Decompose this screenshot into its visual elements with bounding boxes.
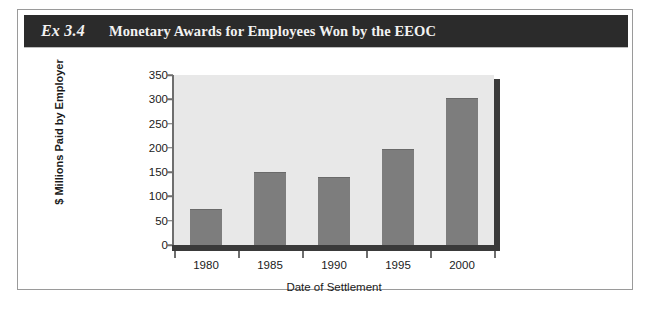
y-tick-label: 250	[149, 118, 168, 130]
x-tick-mark	[494, 251, 496, 258]
bar-chart: $ Millions Paid by Employer 050100150200…	[18, 48, 632, 289]
x-tick-label: 1985	[240, 259, 300, 271]
x-tick-label: 2000	[432, 259, 492, 271]
exhibit-number: Ex 3.4	[41, 22, 85, 40]
y-tick-mark	[167, 99, 173, 101]
y-axis-tick-labels: 050100150200250300350	[136, 75, 168, 245]
bar-2000	[446, 98, 478, 245]
exhibit-title-bar: Ex 3.4 Monetary Awards for Employees Won…	[24, 15, 628, 47]
bar-1995	[382, 149, 414, 245]
x-tick-label: 1990	[304, 259, 364, 271]
y-tick-mark	[167, 220, 173, 222]
y-tick-mark	[167, 171, 173, 173]
y-tick-label: 150	[149, 166, 168, 178]
x-tick-mark	[238, 251, 240, 258]
y-tick-label: 350	[149, 69, 168, 81]
bar-1980	[190, 209, 222, 245]
x-tick-mark	[366, 251, 368, 258]
y-tick-label: 200	[149, 142, 168, 154]
exhibit-figure: Ex 3.4 Monetary Awards for Employees Won…	[17, 9, 633, 290]
bar-1990	[318, 177, 350, 245]
exhibit-title: Monetary Awards for Employees Won by the…	[109, 23, 436, 40]
x-axis-line	[172, 245, 500, 251]
y-tick-label: 300	[149, 93, 168, 105]
y-tick-label: 100	[149, 190, 168, 202]
y-tick-mark	[167, 196, 173, 198]
x-tick-label: 1980	[176, 259, 236, 271]
x-tick-mark	[430, 251, 432, 258]
x-tick-mark	[174, 251, 176, 258]
x-axis-title: Date of Settlement	[174, 281, 494, 293]
y-axis-title: $ Millions Paid by Employer	[53, 47, 65, 217]
plot-area-shadow	[494, 79, 500, 251]
bar-1985	[254, 172, 286, 245]
y-tick-mark	[167, 123, 173, 125]
y-tick-mark	[167, 147, 173, 149]
x-tick-label: 1995	[368, 259, 428, 271]
plot-area	[174, 75, 494, 245]
x-tick-mark	[302, 251, 304, 258]
y-tick-mark	[167, 74, 173, 76]
